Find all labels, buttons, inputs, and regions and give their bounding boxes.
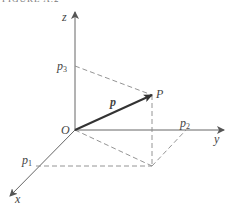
p3-label: p3 [56, 59, 67, 74]
vector-diagram: FIGURE A.2 z y x O P p [0, 0, 234, 205]
p2-label: p2 [179, 116, 190, 131]
point-label: P [155, 87, 164, 101]
vector-label: p [109, 95, 116, 109]
figure-caption: FIGURE A.2 [2, 0, 60, 4]
y-axis-label: y [213, 132, 220, 146]
origin-label: O [61, 123, 70, 137]
x-axis [10, 130, 75, 196]
coordinate-system: z y x O P p p3 p2 p1 [0, 0, 234, 205]
projection-lines [36, 66, 186, 166]
p1-label: p1 [21, 153, 32, 168]
z-axis-label: z [61, 10, 67, 24]
x-axis-label: x [14, 192, 21, 205]
